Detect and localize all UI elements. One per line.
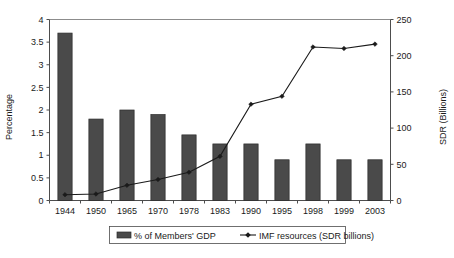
combo-bar-line-chart: 00.511.522.533.54 050100150200250 Percen… (0, 0, 454, 258)
bar-series (58, 33, 382, 200)
right-axis-title: SDR (Billions) (438, 89, 448, 145)
bar (368, 160, 382, 201)
right-tick-label: 150 (397, 87, 412, 97)
x-axis-label: 1983 (210, 206, 230, 216)
legend-label-imf: IMF resources (SDR billions) (259, 231, 374, 241)
bar (151, 115, 165, 201)
x-axis-label: 1965 (117, 206, 137, 216)
x-axis-labels: 1944195019651970197819831990199519981999… (55, 206, 385, 216)
x-axis-label: 1998 (303, 206, 323, 216)
line-marker (342, 46, 347, 51)
right-tick-label: 50 (397, 160, 407, 170)
chart-container: 00.511.522.533.54 050100150200250 Percen… (0, 0, 454, 258)
left-axis-title: Percentage (4, 94, 14, 140)
right-tick-label: 100 (397, 123, 412, 133)
x-axis-label: 2003 (365, 206, 385, 216)
chart-legend: % of Members' GDP IMF resources (SDR bil… (110, 227, 375, 244)
left-tick-label: 3.5 (31, 37, 44, 47)
legend-swatch-bar-icon (117, 232, 131, 238)
left-tick-label: 3 (38, 60, 43, 70)
right-tick-label: 250 (397, 15, 412, 25)
x-axis-label: 1944 (55, 206, 75, 216)
right-axis-ticks: 050100150200250 (391, 15, 412, 206)
left-axis-ticks: 00.511.522.533.54 (31, 15, 50, 206)
bar (306, 144, 320, 201)
x-axis-label: 1990 (241, 206, 261, 216)
x-axis-label: 1995 (272, 206, 292, 216)
left-tick-label: 0 (38, 196, 43, 206)
left-tick-label: 1 (38, 150, 43, 160)
bar (182, 135, 196, 201)
legend-label-gdp: % of Members' GDP (134, 231, 216, 241)
left-tick-label: 0.5 (31, 173, 44, 183)
x-axis-label: 1999 (334, 206, 354, 216)
left-tick-label: 4 (38, 15, 43, 25)
bar (89, 119, 103, 200)
right-tick-label: 200 (397, 51, 412, 61)
x-axis-label: 1950 (86, 206, 106, 216)
left-tick-label: 2.5 (31, 83, 44, 93)
x-axis-label: 1970 (148, 206, 168, 216)
x-axis-label: 1978 (179, 206, 199, 216)
bar (275, 160, 289, 201)
bar (337, 160, 351, 201)
bar (213, 144, 227, 201)
line-marker (249, 102, 254, 107)
bar (58, 33, 72, 200)
left-tick-label: 1.5 (31, 128, 44, 138)
line-marker (373, 42, 378, 47)
bar (244, 144, 258, 201)
right-tick-label: 0 (397, 196, 402, 206)
left-tick-label: 2 (38, 105, 43, 115)
